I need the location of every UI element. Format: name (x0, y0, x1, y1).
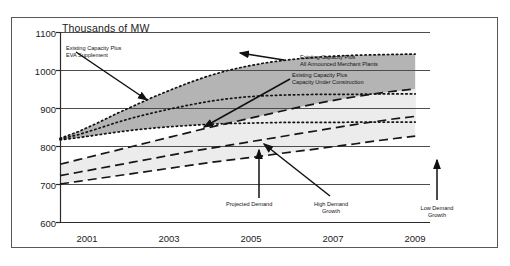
chart-plot-area (0, 0, 510, 266)
annotation-low-demand-growth: Low Demand Growth (419, 205, 455, 220)
annotation-capacity-under-construction: Existing Capacity Plus Capacity Under Co… (292, 72, 364, 87)
annotation-construction-line2: Capacity Under Construction (292, 79, 364, 86)
annotation-projected-demand-line1: Projected Demand (226, 201, 272, 208)
y-axis-ticks (56, 33, 60, 223)
annotation-eva-supplement-line2: EVA Supplement (66, 52, 121, 59)
annotation-eva-supplement: Existing Capacity Plus EVA Supplement (66, 45, 121, 60)
annotation-high-demand-growth: High Demand Growth (313, 201, 349, 216)
annotation-merchant-line1: Existing Capacity Plus (300, 54, 378, 61)
annotation-eva-supplement-line1: Existing Capacity Plus (66, 45, 121, 52)
annotation-low-demand-line1: Low Demand (419, 205, 455, 212)
annotation-merchant-line2: All Announced Merchant Plants (300, 61, 378, 68)
annotation-high-demand-line1: High Demand (313, 201, 349, 208)
annotation-low-demand-line2: Growth (419, 212, 455, 219)
figure-container: Thousands of MW 1100 1000 900 800 700 60… (0, 0, 510, 266)
annotation-high-demand-line2: Growth (313, 208, 349, 215)
annotation-projected-demand: Projected Demand (226, 201, 272, 208)
annotation-all-announced-merchant-plants: Existing Capacity Plus All Announced Mer… (300, 54, 378, 69)
annotation-construction-line1: Existing Capacity Plus (292, 72, 364, 79)
